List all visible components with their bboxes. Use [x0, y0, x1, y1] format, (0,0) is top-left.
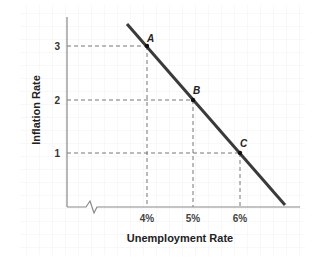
point-c-label: C — [240, 138, 248, 149]
phillips-curve-chart: A B C 3 2 1 4% 5% 6% Unemployment Rate I… — [0, 0, 323, 265]
x-tick-6: 6% — [233, 213, 248, 224]
point-b — [191, 98, 195, 102]
background-grid — [20, 5, 305, 255]
point-c — [238, 151, 242, 155]
point-a-label: A — [146, 33, 154, 44]
point-b-label: B — [193, 85, 200, 96]
y-tick-3: 3 — [54, 41, 60, 52]
x-tick-5: 5% — [186, 213, 201, 224]
point-a — [145, 44, 149, 48]
x-axis-label: Unemployment Rate — [127, 232, 233, 244]
y-tick-1: 1 — [54, 148, 60, 159]
y-axis-label: Inflation Rate — [30, 75, 42, 145]
y-tick-2: 2 — [54, 95, 60, 106]
x-tick-4: 4% — [140, 213, 155, 224]
